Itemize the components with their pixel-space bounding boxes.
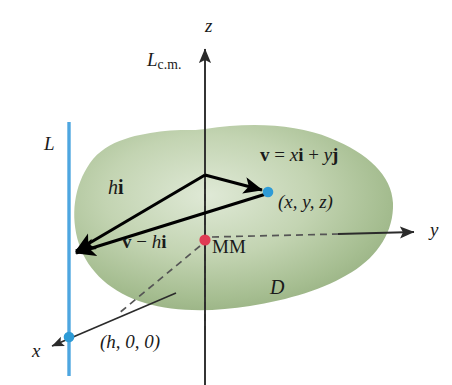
line-cm-label-subscript: c.m. bbox=[158, 57, 182, 72]
diagram-canvas bbox=[0, 0, 452, 385]
vector-equation-label: v = xi + yj bbox=[260, 145, 338, 164]
point-h00-dot bbox=[64, 332, 75, 343]
y-axis-label: y bbox=[430, 220, 438, 239]
vector-eq-y: y bbox=[324, 144, 332, 165]
v-minus-h-i-label-i: i bbox=[161, 231, 166, 252]
v-minus-h-i-label-h: h bbox=[152, 231, 162, 252]
h-i-label-h: h bbox=[108, 176, 118, 198]
vector-eq-x: x bbox=[290, 144, 298, 165]
vector-eq-equals: = bbox=[274, 144, 285, 165]
point-h00-label: (h, 0, 0) bbox=[100, 332, 160, 351]
v-minus-h-i-vector-label: v − hi bbox=[122, 232, 167, 251]
x-axis-label: x bbox=[32, 341, 40, 360]
h-i-vector-label: hi bbox=[108, 177, 124, 197]
z-axis-label: z bbox=[205, 16, 212, 35]
moment-of-inertia-diagram: z Lc.m. L hi v − hi v = xi + yj (x, y, z… bbox=[0, 0, 452, 385]
vector-eq-j: j bbox=[332, 144, 338, 165]
vector-eq-v: v bbox=[260, 144, 270, 165]
v-minus-h-i-label-minus: − bbox=[136, 231, 147, 252]
center-of-mass-dot bbox=[199, 234, 210, 245]
vector-eq-plus: + bbox=[308, 144, 319, 165]
v-minus-h-i-label-v: v bbox=[122, 231, 132, 252]
h-i-label-i: i bbox=[118, 176, 124, 198]
center-of-mass-label: MM bbox=[212, 237, 246, 256]
point-xyz-label: (x, y, z) bbox=[278, 192, 333, 211]
region-D-label: D bbox=[270, 277, 284, 297]
line-cm-label: Lc.m. bbox=[147, 50, 182, 72]
line-L-label: L bbox=[44, 134, 55, 153]
point-xyz-dot bbox=[263, 187, 274, 198]
line-cm-label-L: L bbox=[147, 49, 158, 70]
solid-region-D bbox=[74, 125, 393, 310]
